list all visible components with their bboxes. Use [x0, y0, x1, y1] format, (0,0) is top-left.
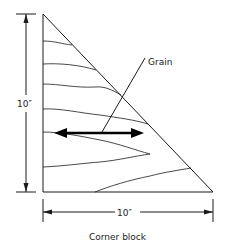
width-label: 10″ [117, 208, 132, 218]
corner-block-diagram: Grain 10″ 10″ Corner block [0, 0, 230, 250]
caption: Corner block [89, 232, 147, 242]
grain-direction-arrow [54, 128, 144, 138]
grain-leader-line [102, 58, 145, 132]
arrowhead-left-icon [43, 210, 52, 215]
arrowhead-right-icon [204, 210, 213, 215]
arrowhead-up-icon [24, 14, 29, 23]
height-label: 10″ [17, 99, 32, 109]
arrowhead-down-icon [24, 183, 29, 192]
grain-label: Grain [148, 57, 172, 67]
